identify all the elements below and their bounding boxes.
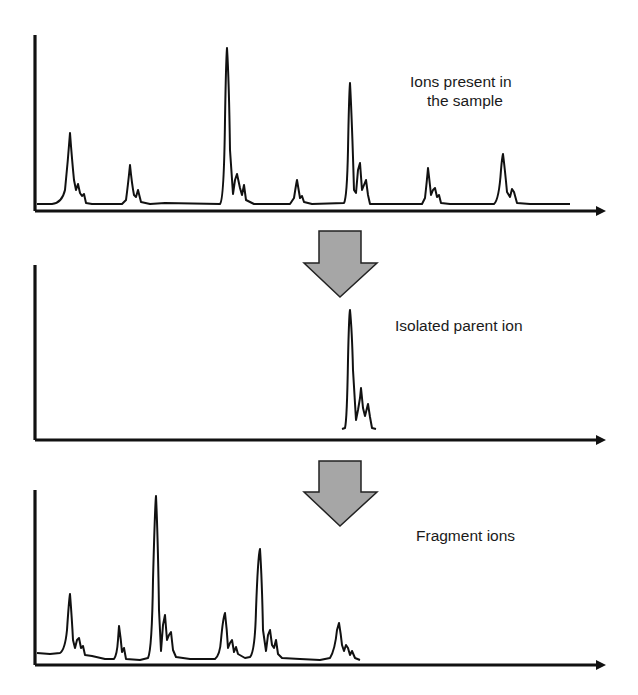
x-axis-arrowhead-icon [596,206,606,216]
x-axis-arrowhead-icon [596,660,606,670]
panel-3-spectrum [35,490,606,670]
panel-1-spectrum [35,35,606,216]
panel-3-label: Fragment ions [416,526,515,545]
panel-1-label-line-2: the sample [410,91,512,110]
ms-ms-diagram [0,0,638,695]
spectrum-trace [342,310,376,429]
down-arrow-icon [304,461,377,526]
panel-1-label: Ions present in the sample [410,72,512,110]
panel-1-label-line-1: Ions present in [410,72,512,91]
down-arrow-icon [304,231,377,297]
panel-2-spectrum [35,265,606,445]
panel-2-label: Isolated parent ion [395,316,523,335]
x-axis-arrowhead-icon [596,435,606,445]
spectrum-trace [37,496,360,660]
